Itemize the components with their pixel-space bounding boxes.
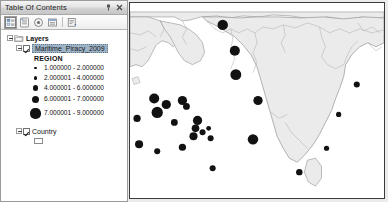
layer-label-country[interactable]: Country [32,128,57,135]
classification-field-label: REGION [1,53,127,63]
legend-class-row[interactable]: 1.000000 - 2.000000 [1,63,127,73]
map-view-container [127,0,388,202]
tree-row-maritime-piracy[interactable]: Maritime_Piracy_2009 [1,43,127,53]
layer-visibility-checkbox-country[interactable] [23,128,30,135]
tree-row-layers-root[interactable]: Layers [1,33,127,43]
arcmap-window: Table Of Contents [0,0,388,202]
layers-root-label: Layers [26,35,49,42]
map-data-frame[interactable] [129,2,385,199]
panel-titlebar: Table Of Contents [1,1,127,15]
list-by-selection-button[interactable] [46,16,59,29]
list-by-visibility-button[interactable] [32,16,45,29]
legend-class-row[interactable]: 7.000001 - 9.000000 [1,106,127,121]
legend-class-row[interactable]: 6.000001 - 7.000000 [1,93,127,106]
expander-layers[interactable] [5,34,14,43]
graduated-circle-icon [32,96,40,104]
panel-divider[interactable] [127,0,128,202]
legend-class-label: 1.000000 - 2.000000 [44,65,104,72]
legend-class-label: 6.000001 - 7.000000 [44,96,104,103]
map-canvas[interactable] [130,3,384,198]
graduated-circle-icon [34,67,36,69]
table-of-contents-panel: Table Of Contents [0,0,127,202]
tree-row-country[interactable]: Country [1,126,127,136]
panel-title: Table Of Contents [5,4,67,12]
legend-symbol [27,67,44,69]
legend-symbol [27,85,44,91]
list-by-drawing-order-button[interactable] [4,16,17,29]
layer-visibility-checkbox-maritime-piracy[interactable] [23,45,30,52]
legend-class-label: 7.000001 - 9.000000 [44,110,104,117]
layers-folder-icon [14,34,24,42]
legend-symbol [27,76,44,80]
legend-class-label: 4.000001 - 6.000000 [44,85,104,92]
toolbar-separator [62,17,63,27]
options-button[interactable] [66,16,79,29]
toc-toolbar [1,15,127,30]
legend-symbol [27,96,44,104]
expander-country[interactable] [14,127,23,136]
expander-maritime-piracy[interactable] [14,44,23,53]
close-icon[interactable] [116,4,123,12]
auto-hide-pin-icon[interactable] [105,4,112,12]
graduated-circle-icon [30,108,40,118]
legend-class-label: 2.000001 - 4.000000 [44,75,104,82]
legend-class-row[interactable]: 2.000001 - 4.000000 [1,73,127,83]
layers-tree[interactable]: Layers Maritime_Piracy_2009 REGION 1.000… [1,30,127,201]
graduated-circle-icon [34,76,38,80]
polygon-swatch-icon[interactable] [34,138,43,144]
layer-label-maritime-piracy[interactable]: Maritime_Piracy_2009 [32,44,108,53]
legend-symbol [27,108,44,118]
list-by-source-button[interactable] [18,16,31,29]
legend-class-row[interactable]: 4.000001 - 6.000000 [1,83,127,93]
graduated-circle-icon [33,85,39,91]
panel-titlebar-buttons [105,4,125,12]
